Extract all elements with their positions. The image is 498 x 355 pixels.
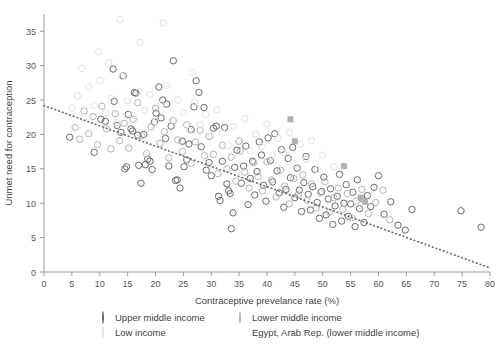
- data-point: [365, 210, 371, 216]
- data-point: [210, 151, 216, 157]
- data-point: [189, 69, 195, 75]
- data-point: [330, 221, 336, 227]
- x-axis-title: Contraceptive prevelance rate (%): [195, 295, 339, 306]
- data-point: [253, 131, 259, 137]
- data-points-layer: [66, 16, 484, 233]
- data-point: [380, 187, 386, 193]
- data-point: [181, 164, 187, 170]
- data-point: [156, 84, 162, 90]
- legend-label: Upper middle income: [115, 312, 205, 323]
- x-tick-label: 45: [290, 279, 300, 289]
- data-point: [136, 162, 142, 168]
- legend-label: Low income: [115, 327, 166, 338]
- data-point: [264, 121, 270, 127]
- data-point: [102, 110, 108, 116]
- data-point: [108, 146, 114, 152]
- data-point: [179, 148, 185, 154]
- data-point: [117, 137, 123, 143]
- data-point: [148, 124, 154, 130]
- x-tick-label: 15: [123, 279, 133, 289]
- data-point: [147, 91, 153, 97]
- data-point: [166, 163, 172, 169]
- data-point: [203, 167, 209, 173]
- data-point: [289, 144, 295, 150]
- data-point: [395, 222, 401, 228]
- data-point: [230, 210, 236, 216]
- data-point: [175, 137, 181, 143]
- data-point: [175, 97, 181, 103]
- data-point: [69, 105, 75, 111]
- data-point: [99, 103, 105, 109]
- data-point: [335, 185, 341, 191]
- data-point: [180, 109, 186, 115]
- data-point: [186, 141, 192, 147]
- legend-label: Egypt, Arab Rep. (lower middle income): [252, 327, 419, 338]
- y-tick-label: 5: [31, 233, 36, 243]
- data-point: [373, 199, 379, 205]
- data-point: [245, 201, 251, 207]
- trend-line: [44, 106, 490, 268]
- data-point: [91, 102, 97, 108]
- data-point: [196, 89, 202, 95]
- data-point: [163, 82, 169, 88]
- x-tick-label: 75: [457, 279, 467, 289]
- data-point: [331, 164, 337, 170]
- data-point: [273, 194, 279, 200]
- data-point: [230, 124, 236, 130]
- circle-marker-icon: [237, 312, 248, 323]
- scatter-plot: 05101520253035404550556065707580 0510152…: [0, 0, 498, 355]
- data-point: [215, 170, 221, 176]
- data-point: [252, 192, 258, 198]
- data-point-square: [362, 199, 368, 205]
- circle-marker-icon: [100, 312, 111, 323]
- x-tick-label: 55: [346, 279, 356, 289]
- data-point: [90, 113, 96, 119]
- data-point: [297, 141, 303, 147]
- square-marker-icon: [237, 327, 248, 338]
- data-point: [191, 99, 197, 105]
- data-point: [85, 84, 91, 90]
- legend-label: Lower middle income: [252, 312, 342, 323]
- y-tick-label: 35: [26, 27, 36, 37]
- x-tick-label: 50: [318, 279, 328, 289]
- data-point: [179, 138, 185, 144]
- data-point: [157, 140, 163, 146]
- data-point: [202, 111, 208, 117]
- legend-item-upper-middle-income: Upper middle income: [100, 312, 237, 323]
- data-point: [298, 208, 304, 214]
- data-point: [305, 191, 311, 197]
- data-point: [137, 39, 143, 45]
- data-point: [316, 215, 322, 221]
- circle-marker-icon: [100, 327, 111, 338]
- y-axis-title: Unmet need for contraception: [3, 80, 14, 205]
- data-point: [134, 100, 140, 106]
- data-point: [285, 155, 291, 161]
- y-tick-label: 30: [26, 61, 36, 71]
- y-tick-label: 0: [31, 268, 36, 278]
- data-point: [141, 107, 147, 113]
- data-point: [66, 134, 72, 140]
- data-point: [91, 149, 97, 155]
- data-point: [228, 154, 234, 160]
- data-point: [170, 58, 176, 64]
- data-point: [242, 115, 248, 121]
- data-point: [162, 135, 168, 141]
- data-point: [128, 126, 134, 132]
- data-point: [341, 200, 347, 206]
- data-point: [354, 177, 360, 183]
- data-point: [214, 106, 220, 112]
- data-point: [332, 203, 338, 209]
- data-point: [79, 65, 85, 71]
- data-point: [478, 224, 484, 230]
- data-point: [201, 104, 207, 110]
- x-tick-label: 20: [150, 279, 160, 289]
- x-tick-label: 65: [401, 279, 411, 289]
- data-point: [263, 198, 269, 204]
- data-point: [85, 131, 91, 137]
- chart-legend: Upper middle income Lower middle income …: [100, 312, 440, 342]
- data-point: [138, 180, 144, 186]
- data-point: [95, 49, 101, 55]
- data-point: [268, 177, 274, 183]
- x-tick-label: 10: [95, 279, 105, 289]
- data-point: [198, 144, 204, 150]
